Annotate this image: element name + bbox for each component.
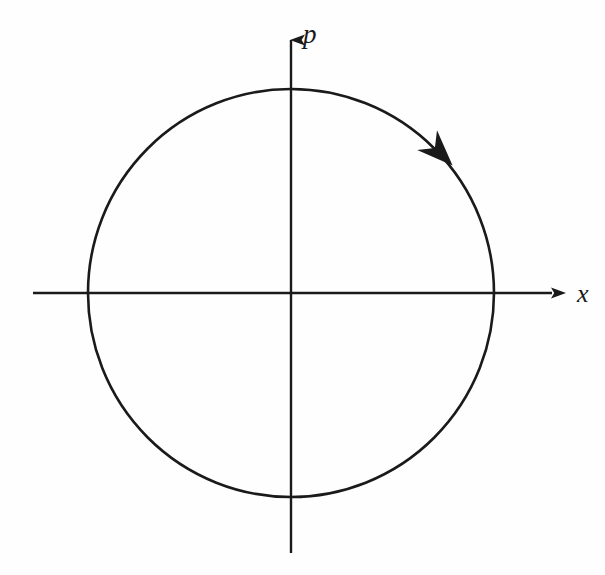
x-axis-label: x (576, 279, 589, 308)
phase-diagram-canvas: p x (0, 0, 605, 575)
phase-space-figure: p x (0, 0, 605, 575)
p-axis-label: p (301, 19, 317, 49)
clockwise-arrowhead-icon (417, 130, 462, 175)
